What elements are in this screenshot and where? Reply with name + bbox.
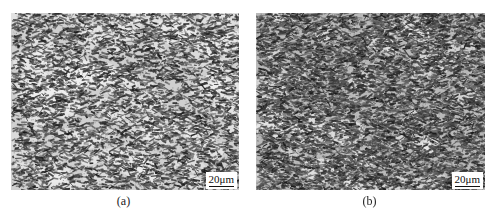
figure-panel-a: 20μm (a): [0, 0, 247, 219]
scale-bar-label-b: 20μm: [455, 173, 480, 185]
figure-panel-b: 20μm (b): [247, 0, 494, 219]
scale-bar-b: 20μm: [452, 172, 483, 189]
micrograph-image-a: 20μm: [11, 13, 239, 190]
scale-bar-label-a: 20μm: [209, 173, 234, 185]
micrograph-texture-a: [11, 13, 239, 190]
scale-bar-a: 20μm: [206, 172, 237, 189]
scale-bar-line-b: [455, 186, 480, 187]
micrograph-texture-b: [256, 13, 485, 190]
scale-bar-line-a: [209, 186, 234, 187]
micrograph-image-b: 20μm: [256, 13, 485, 190]
panel-caption-a: (a): [0, 194, 247, 209]
panel-caption-b: (b): [246, 194, 493, 209]
